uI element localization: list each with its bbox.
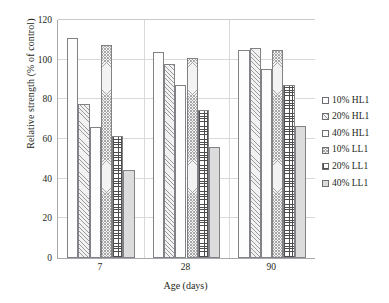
legend-item-label: 20% HL1 [332, 112, 369, 122]
bar-20-ll1-28 [198, 110, 209, 258]
x-axis-tick-label: 90 [266, 262, 276, 272]
y-axis-tick-label: 100 [38, 55, 52, 65]
bar-20-hl1-7 [78, 104, 89, 258]
legend-item-label: 10% LL1 [332, 145, 368, 155]
legend-item[interactable]: 40% HL1 [322, 125, 388, 142]
legend-item-label: 40% LL1 [332, 179, 368, 189]
y-axis-tick-labels: 020406080100120 [22, 0, 52, 303]
bar-series-container [58, 20, 315, 258]
legend-item-label: 20% LL1 [332, 162, 368, 172]
legend-item[interactable]: 20% HL1 [322, 109, 388, 126]
legend-swatch-icon [322, 163, 329, 170]
bar-40-hl1-7 [90, 127, 101, 258]
bar-20-hl1-90 [250, 48, 261, 258]
bar-40-hl1-90 [261, 69, 272, 258]
y-axis-tick-label: 120 [38, 15, 52, 25]
bar-40-ll1-90 [295, 126, 306, 258]
bar-20-ll1-7 [112, 136, 123, 258]
legend-item[interactable]: 10% HL1 [322, 92, 388, 109]
chart-legend: 10% HL120% HL140% HL110% LL120% LL140% L… [322, 92, 388, 192]
legend-swatch-icon [322, 113, 329, 120]
legend-item[interactable]: 20% LL1 [322, 158, 388, 175]
bar-10-hl1-7 [67, 38, 78, 258]
legend-item[interactable]: 40% LL1 [322, 175, 388, 192]
x-axis-title: Age (days) [57, 280, 314, 291]
legend-item[interactable]: 10% LL1 [322, 142, 388, 159]
legend-item-label: 40% HL1 [332, 129, 369, 139]
legend-item-label: 10% HL1 [332, 96, 369, 106]
y-axis-tick-label: 40 [43, 174, 53, 184]
legend-swatch-icon [322, 180, 329, 187]
legend-swatch-icon [322, 130, 329, 137]
bar-20-hl1-28 [164, 64, 175, 258]
x-axis-tick-label: 7 [97, 262, 102, 272]
bar-10-hl1-90 [238, 50, 249, 258]
bar-20-ll1-90 [283, 85, 294, 258]
bar-40-hl1-28 [175, 85, 186, 258]
legend-swatch-icon [322, 147, 329, 154]
plot-area [57, 20, 315, 259]
y-axis-tick-label: 80 [43, 94, 53, 104]
legend-swatch-icon [322, 97, 329, 104]
bar-40-ll1-28 [209, 147, 220, 258]
bar-40-ll1-7 [123, 170, 134, 258]
y-axis-tick-label: 60 [43, 134, 53, 144]
x-axis-tick-label: 28 [181, 262, 191, 272]
y-axis-tick-label: 0 [47, 253, 52, 263]
x-axis-tick-labels: 72890 [57, 262, 314, 278]
bar-10-ll1-28 [187, 58, 198, 258]
bar-chart-figure: Relative strength (% of control) 0204060… [0, 0, 389, 303]
y-axis-tick-label: 20 [43, 213, 53, 223]
bar-10-ll1-7 [101, 45, 112, 258]
bar-10-ll1-90 [272, 50, 283, 258]
bar-10-hl1-28 [153, 52, 164, 258]
